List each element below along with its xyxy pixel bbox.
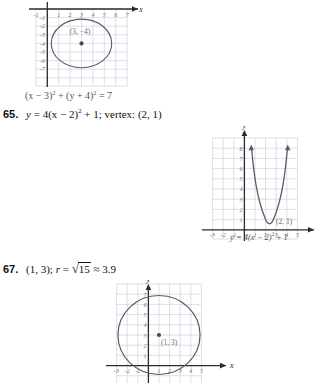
svg-text:5: 5 [200, 368, 203, 374]
parabola-right-arrow [285, 145, 290, 151]
svg-text:-2: -2 [125, 368, 130, 374]
svg-text:4: 4 [240, 186, 243, 192]
svg-text:3: 3 [79, 12, 83, 18]
problem-65-tail: + 1; [84, 108, 102, 120]
problem-65-lhs: y [26, 108, 31, 120]
center-point-marker [79, 41, 83, 45]
svg-text:-3: -3 [210, 232, 215, 238]
x-axis-arrow [220, 363, 226, 369]
y-tick-labels: 1 2 3 4 5 6 7 8 [239, 146, 244, 223]
x-axis-label: x [229, 361, 234, 370]
center-point-marker [157, 333, 161, 337]
svg-text:3: 3 [143, 333, 147, 339]
svg-text:1: 1 [158, 368, 161, 374]
svg-text:4: 4 [91, 12, 94, 18]
svg-text:6: 6 [240, 166, 243, 172]
svg-text:1: 1 [57, 12, 60, 18]
center-point-label: (3, −4) [70, 27, 91, 36]
y-axis-arrow [242, 130, 248, 136]
svg-text:4: 4 [189, 368, 192, 374]
svg-text:5: 5 [144, 312, 147, 318]
circle-graph-bottom: y x (1, 3) -3 -2 -1 1 2 3 4 5 1 2 3 4 5 … [100, 280, 260, 383]
y-tick-labels: 1 2 3 4 5 6 7 [143, 292, 148, 359]
svg-text:-1: -1 [33, 12, 38, 18]
problem-67-r: r [56, 263, 60, 275]
problem-67-center: (1, 3); [26, 263, 53, 275]
problem-65-vertex-word: vertex: [105, 108, 136, 120]
svg-text:-2: -2 [40, 23, 45, 29]
problem-65: 65. y = 4(x − 2)2 + 1; vertex: (2, 1) [3, 108, 162, 120]
svg-text:2: 2 [144, 343, 147, 349]
svg-text:6: 6 [114, 12, 117, 18]
problem-65-number: 65. [3, 108, 18, 120]
problem-67-answer: (1, 3); r = √15 ≈ 3.9 [26, 263, 116, 275]
parabola-graph-svg: y x (2, 1) -3 -2 -1 1 2 3 4 5 1 2 3 4 5 … [196, 126, 322, 244]
problem-67: 67. (1, 3); r = √15 ≈ 3.9 [3, 261, 116, 277]
problem-67-radicand: 15 [78, 262, 91, 275]
caption-part-1: (x − 3) [25, 90, 52, 101]
circle-graph-top-caption: (x − 3)2 + (y + 4)2 = 7 [25, 90, 112, 101]
problem-65-answer: y = 4(x − 2)2 + 1; vertex: (2, 1) [26, 108, 162, 120]
svg-text:2: 2 [240, 207, 243, 213]
svg-text:6: 6 [144, 302, 147, 308]
svg-text:-5: -5 [40, 49, 45, 55]
svg-text:2: 2 [69, 12, 72, 18]
svg-text:7: 7 [126, 12, 130, 18]
svg-text:-1: -1 [135, 368, 140, 374]
svg-text:-3: -3 [114, 368, 119, 374]
svg-text:-6: -6 [40, 58, 45, 64]
svg-text:5: 5 [240, 176, 243, 182]
caption-part-2: + (y + 4) [55, 90, 93, 101]
svg-text:1: 1 [144, 353, 147, 359]
x-axis-arrow [308, 227, 314, 233]
parabola-left-arrow [249, 145, 254, 151]
vertex-point-label: (2, 1) [276, 217, 293, 226]
problem-67-approx: ≈ 3.9 [94, 263, 117, 275]
svg-text:-1: -1 [40, 15, 45, 21]
center-point-label: (1, 3) [161, 338, 178, 347]
caption-part-3: = 7 [96, 90, 112, 101]
circle-graph-bottom-svg: y x (1, 3) -3 -2 -1 1 2 3 4 5 1 2 3 4 5 … [100, 280, 260, 383]
x-tick-labels: -3 -2 -1 1 2 3 4 5 [114, 368, 203, 374]
problem-65-power: 2 [78, 107, 81, 114]
problem-65-coef: 4(x − 2) [43, 108, 79, 120]
svg-text:2: 2 [168, 368, 171, 374]
svg-text:-3: -3 [40, 32, 45, 38]
svg-text:7: 7 [240, 156, 244, 162]
axes [29, 2, 138, 87]
parabola-curve [252, 148, 288, 224]
parabola-caption-part-1: y = 4(x − 2) [230, 232, 272, 242]
svg-text:4: 4 [144, 322, 147, 328]
problem-67-eq: = [63, 263, 69, 275]
problem-65-eq: = [34, 108, 40, 120]
circle-graph-top: x (3, −4) -1 1 2 3 4 5 6 7 -1 -2 -3 -4 -… [26, 0, 148, 88]
y-axis-label: y [146, 280, 151, 284]
problem-67-number: 67. [3, 263, 18, 275]
svg-text:3: 3 [239, 197, 243, 203]
svg-text:-4: -4 [40, 41, 45, 47]
x-axis-label: x [138, 5, 143, 14]
parabola-graph-caption: y = 4(x − 2)2 + 1 [230, 232, 288, 242]
x-axis-arrow [132, 6, 138, 12]
svg-text:3: 3 [178, 368, 182, 374]
problem-65-vertex: (2, 1) [138, 108, 162, 120]
svg-text:-2: -2 [221, 232, 226, 238]
parabola-graph: y x (2, 1) -3 -2 -1 1 2 3 4 5 1 2 3 4 5 … [196, 126, 322, 244]
svg-text:8: 8 [240, 146, 243, 152]
parabola-caption-part-2: + 1 [274, 232, 287, 242]
svg-text:5: 5 [103, 12, 106, 18]
y-axis-label: y [242, 126, 247, 130]
svg-text:1: 1 [240, 217, 243, 223]
grid-lines [36, 9, 127, 86]
y-axis-arrow [146, 284, 152, 290]
svg-text:5: 5 [296, 232, 299, 238]
circle-graph-top-svg: x (3, −4) -1 1 2 3 4 5 6 7 -1 -2 -3 -4 -… [26, 0, 148, 88]
